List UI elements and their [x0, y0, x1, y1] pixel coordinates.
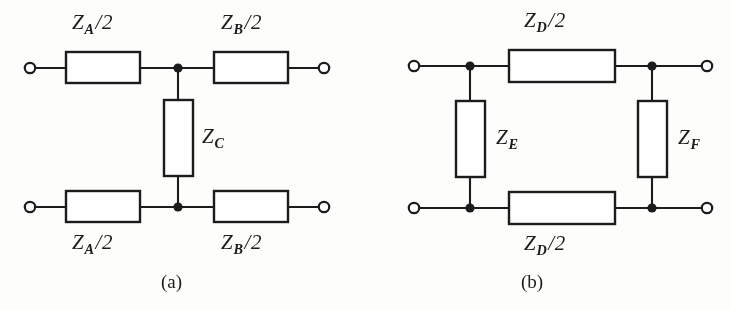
box-z-c-shunt [164, 100, 193, 176]
terminal-b-top-left[interactable] [409, 61, 419, 71]
label-slash: / [94, 230, 102, 254]
label-z-d-half-bottom: ZD/2 [524, 233, 565, 257]
node-b-bottom-left [465, 203, 474, 212]
label-slash: / [547, 231, 555, 255]
label-subscript: D [536, 242, 547, 258]
label-slash: / [547, 8, 555, 32]
label-slash: / [243, 230, 251, 254]
label-z-b-half-bottom: ZB/2 [221, 232, 262, 256]
label-slash: / [243, 10, 251, 34]
label-denominator: 2 [555, 231, 566, 255]
circuit-schematic-canvas: .wire { stroke: #1c1c1c; stroke-width: 2… [0, 0, 731, 310]
terminal-a-bottom-right[interactable] [319, 202, 329, 212]
label-denominator: 2 [555, 8, 566, 32]
label-subscript: A [84, 241, 94, 257]
box-z-b-half-top [214, 52, 288, 83]
terminal-b-top-right[interactable] [702, 61, 712, 71]
label-symbol: Z [72, 230, 84, 254]
terminal-a-top-right[interactable] [319, 63, 329, 73]
label-subscript: E [508, 136, 518, 152]
label-z-c-shunt: ZC [202, 126, 224, 150]
box-z-a-half-bottom [66, 191, 140, 222]
label-denominator: 2 [102, 230, 113, 254]
caption-panel-a: (a) [161, 272, 182, 291]
box-z-b-half-bottom [214, 191, 288, 222]
box-z-d-half-bottom [509, 192, 615, 224]
panel-a-circuit [25, 52, 329, 222]
label-denominator: 2 [102, 10, 113, 34]
label-symbol: Z [221, 10, 233, 34]
label-symbol: Z [496, 125, 508, 149]
label-denominator: 2 [251, 230, 262, 254]
label-symbol: Z [221, 230, 233, 254]
label-subscript: B [233, 241, 243, 257]
node-a-bottom-junction [173, 202, 182, 211]
terminal-a-bottom-left[interactable] [25, 202, 35, 212]
box-z-d-half-top [509, 50, 615, 82]
label-denominator: 2 [251, 10, 262, 34]
label-z-b-half-top: ZB/2 [221, 12, 262, 36]
label-symbol: Z [72, 10, 84, 34]
box-z-f-shunt [638, 101, 667, 177]
label-z-f-shunt: ZF [678, 127, 700, 151]
label-subscript: F [690, 136, 700, 152]
panel-b-circuit [409, 50, 712, 224]
node-b-top-left [465, 61, 474, 70]
caption-panel-b: (b) [521, 272, 543, 291]
label-z-a-half-bottom: ZA/2 [72, 232, 113, 256]
terminal-b-bottom-right[interactable] [702, 203, 712, 213]
label-symbol: Z [202, 124, 214, 148]
terminal-a-top-left[interactable] [25, 63, 35, 73]
label-z-a-half-top: ZA/2 [72, 12, 113, 36]
terminal-b-bottom-left[interactable] [409, 203, 419, 213]
node-a-top-junction [173, 63, 182, 72]
label-subscript: A [84, 21, 94, 37]
node-b-bottom-right [647, 203, 656, 212]
label-subscript: B [233, 21, 243, 37]
label-z-d-half-top: ZD/2 [524, 10, 565, 34]
node-b-top-right [647, 61, 656, 70]
box-z-e-shunt [456, 101, 485, 177]
label-subscript: C [214, 135, 224, 151]
figure-root: .wire { stroke: #1c1c1c; stroke-width: 2… [0, 0, 731, 310]
label-slash: / [94, 10, 102, 34]
label-symbol: Z [524, 8, 536, 32]
box-z-a-half-top [66, 52, 140, 83]
label-symbol: Z [524, 231, 536, 255]
label-symbol: Z [678, 125, 690, 149]
label-subscript: D [536, 19, 547, 35]
label-z-e-shunt: ZE [496, 127, 518, 151]
